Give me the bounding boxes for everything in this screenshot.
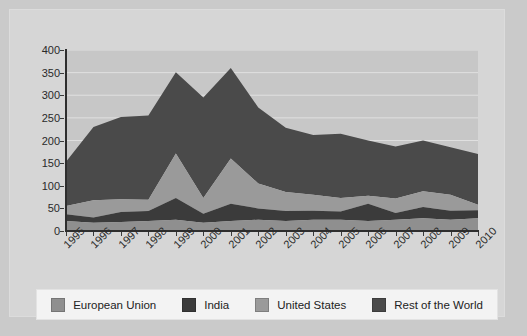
x-axis-tick-mark [148,232,149,236]
stacked-area-svg [66,50,478,231]
x-axis-tick-mark [341,232,342,236]
x-axis-tick-mark [176,232,177,236]
legend-item[interactable]: India [182,298,229,312]
y-axis-tick-label: 300 [26,90,60,100]
x-axis-tick-mark [203,232,204,236]
legend-item[interactable]: European Union [51,298,156,312]
x-axis-labels: 1995199619971998199920002001200220032004… [24,236,494,280]
x-axis-tick-mark [368,232,369,236]
chart-area: 400350300250200150100500 199519961997199… [24,24,494,289]
y-axis-tick-mark [60,186,64,187]
legend-item[interactable]: Rest of the World [372,298,483,312]
legend-label: European Union [73,299,156,311]
y-axis-tick-mark [60,118,64,119]
chart-frame: 400350300250200150100500 199519961997199… [9,9,505,317]
y-axis-tick-mark [60,141,64,142]
x-axis-tick-mark [286,232,287,236]
x-axis-tick-mark [258,232,259,236]
x-axis-tick-mark [231,232,232,236]
y-axis-tick-label: 400 [26,45,60,55]
y-axis-tick-mark [60,73,64,74]
y-axis-tick-mark [60,163,64,164]
x-axis-tick-mark [66,232,67,236]
y-axis-tick-mark [60,95,64,96]
y-axis-labels: 400350300250200150100500 [24,50,60,231]
legend-item[interactable]: United States [255,298,346,312]
y-axis-tick-label: 50 [26,203,60,213]
x-axis-tick-mark [121,232,122,236]
legend-color-swatch [255,298,269,312]
legend-color-swatch [182,298,196,312]
x-axis-tick-mark [478,232,479,236]
plot-region [66,50,478,231]
y-axis-tick-mark [60,231,64,232]
y-axis-tick-mark [60,50,64,51]
y-axis-tick-label: 100 [26,181,60,191]
x-axis-tick-mark [313,232,314,236]
y-axis-tick-mark [60,208,64,209]
x-axis-tick-mark [396,232,397,236]
legend-label: Rest of the World [394,299,483,311]
y-axis-tick-label: 200 [26,136,60,146]
legend-label: United States [277,299,346,311]
chart-legend: European UnionIndiaUnited StatesRest of … [36,289,498,320]
legend-label: India [204,299,229,311]
y-axis-tick-label: 150 [26,158,60,168]
x-axis-tick-mark [423,232,424,236]
legend-color-swatch [372,298,386,312]
x-axis-tick-mark [451,232,452,236]
y-axis-tick-label: 250 [26,113,60,123]
x-axis-tick-mark [93,232,94,236]
area-series-rest-of-the-world [66,68,478,206]
chart-screenshot: 400350300250200150100500 199519961997199… [0,0,527,336]
y-axis-tick-label: 350 [26,68,60,78]
y-axis-line [65,49,67,232]
legend-color-swatch [51,298,65,312]
y-axis-tick-label: 0 [26,226,60,236]
